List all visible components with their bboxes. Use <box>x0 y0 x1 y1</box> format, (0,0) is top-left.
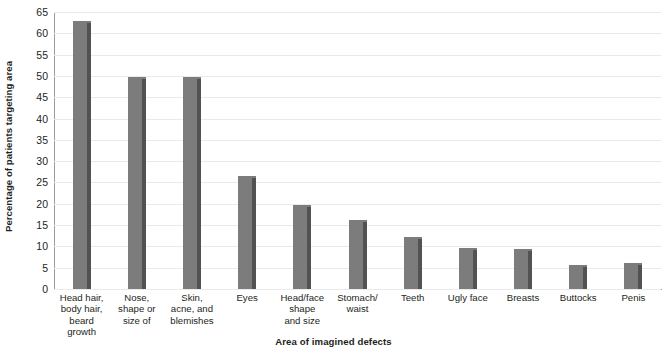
y-axis-tick-label: 50 <box>0 70 48 82</box>
y-axis-tick-label: 15 <box>0 219 48 231</box>
x-axis-tick-label-line: Teeth <box>385 292 440 303</box>
bar-side-shading <box>87 23 91 289</box>
x-axis-tick-label: Head hair,body hair,beardgrowth <box>54 292 109 338</box>
bar-side-shading <box>473 250 477 289</box>
x-axis-tick-label: Nose,shape orsize of <box>109 292 164 326</box>
bar <box>183 77 201 289</box>
x-axis-tick-label: Skin,acne, andblemishes <box>164 292 219 326</box>
bar-side-shading <box>638 265 642 289</box>
bar <box>459 248 477 289</box>
bar <box>128 77 146 289</box>
bar-side-shading <box>363 222 367 289</box>
y-axis-tick-label: 55 <box>0 49 48 61</box>
x-axis-tick-label-line: beard <box>54 315 109 326</box>
x-axis-tick-label: Buttocks <box>551 292 606 303</box>
x-axis-tick-label-line: blemishes <box>164 315 219 326</box>
bar <box>514 249 532 289</box>
x-axis-tick-label-line: Penis <box>606 292 661 303</box>
bar <box>569 265 587 289</box>
bar-side-shading <box>583 267 587 289</box>
bar <box>293 205 311 289</box>
y-axis-tick-label: 40 <box>0 113 48 125</box>
x-axis-tick-label: Stomach/waist <box>330 292 385 315</box>
x-axis-tick-label-line: Stomach/ <box>330 292 385 303</box>
y-axis-tick-label: 65 <box>0 6 48 18</box>
x-axis-tick-label-line: waist <box>330 303 385 314</box>
x-axis-tick-label-line: Head hair, <box>54 292 109 303</box>
bar-chart: Percentage of patients targeting area 05… <box>0 0 667 355</box>
y-axis-tick-label: 25 <box>0 176 48 188</box>
x-axis-tick-label-line: Eyes <box>220 292 275 303</box>
x-axis-tick-label-line: shape or <box>109 303 164 314</box>
y-axis-tick-label: 10 <box>0 240 48 252</box>
y-axis-tick-label: 5 <box>0 262 48 274</box>
x-axis-tick-label-line: Buttocks <box>551 292 606 303</box>
bar <box>624 263 642 289</box>
bar <box>349 220 367 289</box>
x-axis-tick-label-line: Breasts <box>495 292 550 303</box>
x-axis-tick-label: Teeth <box>385 292 440 303</box>
y-axis-tick-label: 35 <box>0 134 48 146</box>
y-axis-tick-label: 60 <box>0 27 48 39</box>
gridline <box>54 289 661 290</box>
x-axis-title: Area of imagined defects <box>0 336 667 347</box>
x-axis-tick-label: Ugly face <box>440 292 495 303</box>
x-axis-tick-label-line: acne, and <box>164 303 219 314</box>
x-axis-tick-label: Head/faceshapeand size <box>275 292 330 326</box>
x-axis-tick-label-line: size of <box>109 315 164 326</box>
bar <box>404 237 422 289</box>
x-axis-tick-label-line: Ugly face <box>440 292 495 303</box>
x-axis-tick-label: Eyes <box>220 292 275 303</box>
x-axis-tick-label-line: shape <box>275 303 330 314</box>
bar-side-shading <box>418 239 422 289</box>
x-axis-tick-label: Penis <box>606 292 661 303</box>
x-axis-tick-label-line: Nose, <box>109 292 164 303</box>
bar-side-shading <box>307 207 311 289</box>
y-axis-tick-label: 20 <box>0 198 48 210</box>
y-axis-tick-label: 30 <box>0 155 48 167</box>
bar <box>73 21 91 289</box>
bar-side-shading <box>252 178 256 289</box>
bar <box>238 176 256 289</box>
bar-side-shading <box>528 251 532 289</box>
x-axis-tick-label: Breasts <box>495 292 550 303</box>
y-axis-tick-label: 45 <box>0 91 48 103</box>
bars-layer <box>54 12 661 289</box>
x-axis-tick-label-line: and size <box>275 315 330 326</box>
bar-side-shading <box>197 79 201 289</box>
y-axis-tick-label: 0 <box>0 283 48 295</box>
plot-area <box>54 12 661 289</box>
x-axis-tick-label-line: body hair, <box>54 303 109 314</box>
bar-side-shading <box>142 79 146 289</box>
x-axis-tick-label-line: Skin, <box>164 292 219 303</box>
x-axis-tick-label-line: Head/face <box>275 292 330 303</box>
